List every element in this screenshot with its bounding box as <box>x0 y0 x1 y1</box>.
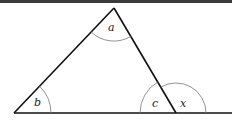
angle-b-arc <box>40 86 52 113</box>
right-side <box>114 8 176 113</box>
angle-c-label: c <box>152 97 158 110</box>
left-side <box>14 8 114 113</box>
angle-x-label: x <box>180 97 187 110</box>
triangle-diagram: a b c x <box>0 0 232 124</box>
angle-a-label: a <box>108 21 115 34</box>
angle-b-label: b <box>34 96 41 109</box>
